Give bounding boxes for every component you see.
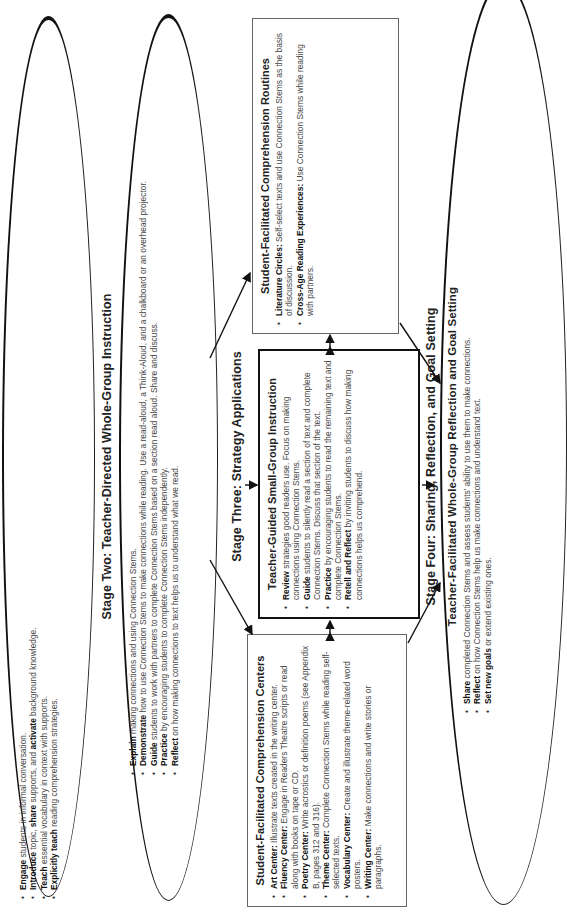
arrow-routines-to-stage-four-icon bbox=[400, 323, 440, 383]
arrow-to-centers-icon bbox=[210, 560, 252, 634]
arrow-to-routines-icon bbox=[210, 273, 250, 358]
arrow-centers-to-stage-four-icon bbox=[408, 583, 440, 643]
